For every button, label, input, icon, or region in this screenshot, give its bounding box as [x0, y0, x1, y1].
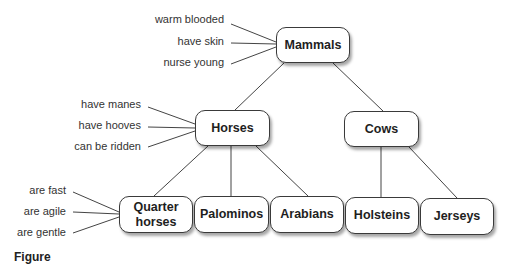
horses-attribute: have hooves: [79, 119, 141, 131]
node-label: Palominos: [200, 207, 263, 222]
quarter-horses-attribute: are gentle: [17, 226, 66, 238]
node-horses: Horses: [195, 110, 270, 146]
node-label: Cows: [365, 122, 398, 137]
mammals-attribute: nurse young: [163, 56, 224, 68]
node-jerseys: Jerseys: [420, 198, 494, 235]
node-mammals: Mammals: [276, 27, 350, 63]
mammals-attribute: warm blooded: [155, 13, 224, 25]
horses-attribute: can be ridden: [74, 140, 141, 152]
quarter-horses-attribute: are fast: [29, 184, 66, 196]
mammals-attribute: have skin: [178, 35, 224, 47]
figure-caption: Figure: [14, 250, 51, 264]
node-label: Mammals: [285, 38, 342, 53]
node-arabians: Arabians: [270, 196, 344, 233]
horses-attribute: have manes: [81, 98, 141, 110]
node-palominos: Palominos: [194, 196, 269, 233]
quarter-horses-attribute: are agile: [24, 205, 66, 217]
node-holsteins: Holsteins: [345, 197, 419, 234]
node-label: Quarter horses: [132, 200, 180, 230]
node-quarter-horses: Quarter horses: [119, 196, 193, 233]
node-label: Jerseys: [434, 209, 481, 224]
node-label: Horses: [211, 121, 253, 136]
node-label: Holsteins: [354, 208, 410, 223]
node-label: Arabians: [280, 207, 334, 222]
node-cows: Cows: [344, 111, 419, 147]
